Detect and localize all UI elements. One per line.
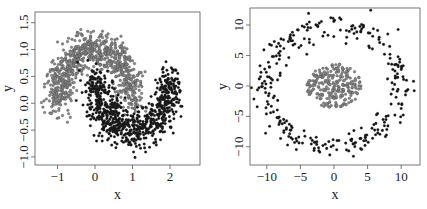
y-tick-label: 5 (231, 52, 246, 59)
scatter-plot-2: −10−50510x−10−50510y (215, 8, 420, 202)
y-tick-label: −5 (231, 109, 246, 123)
y-tick-label: −1.0 (16, 145, 31, 169)
data-points (40, 28, 183, 158)
x-axis: −10−50510 (257, 165, 408, 184)
y-axis-label: y (0, 85, 15, 92)
scatter-plot-1: −1012x−1.0−0.50.00.51.01.5y (0, 12, 200, 202)
figure: −1012x−1.0−0.50.00.51.01.5y−10−50510x−10… (0, 0, 427, 209)
data-points (250, 9, 415, 158)
x-tick-label: 0 (92, 169, 99, 184)
x-tick-label: 10 (395, 169, 408, 184)
x-tick-label: 5 (364, 169, 371, 184)
y-tick-label: −10 (231, 137, 246, 157)
x-axis: −1012 (51, 165, 174, 184)
x-tick-label: 0 (331, 169, 338, 184)
y-tick-label: 0 (231, 83, 246, 90)
y-tick-label: −0.5 (16, 118, 31, 142)
x-axis-label: x (332, 187, 339, 202)
y-tick-label: 0.5 (16, 68, 31, 84)
x-tick-label: −1 (51, 169, 65, 184)
y-axis: −10−50510 (231, 19, 250, 157)
x-axis-label: x (114, 187, 121, 202)
x-tick-label: 1 (129, 169, 136, 184)
y-tick-label: 1.5 (16, 15, 31, 31)
y-tick-label: 0.0 (16, 95, 31, 111)
y-tick-label: 1.0 (16, 41, 31, 57)
x-tick-label: 2 (167, 169, 174, 184)
y-tick-label: 10 (231, 19, 246, 32)
x-tick-label: −10 (257, 169, 277, 184)
x-tick-label: −5 (293, 169, 307, 184)
y-axis: −1.0−0.50.00.51.01.5 (16, 15, 35, 169)
y-axis-label: y (215, 83, 230, 90)
